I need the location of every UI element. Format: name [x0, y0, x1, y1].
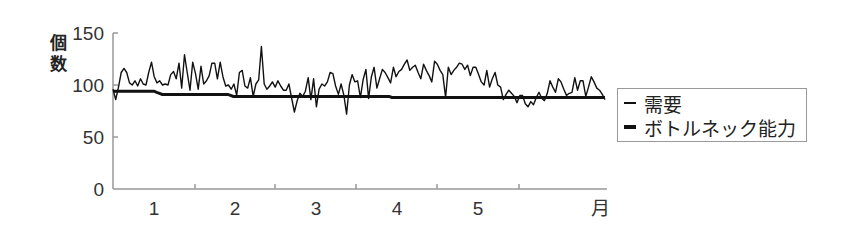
legend-label-demand: 需要 [644, 90, 682, 117]
x-tick-2: 2 [230, 198, 241, 219]
y-axis-label-char-1: 個 [49, 33, 67, 53]
y-tick-0: 0 [93, 179, 104, 200]
x-tick-5: 5 [473, 198, 484, 219]
legend-item-capacity: ボトルネック能力 [624, 115, 806, 139]
x-tick-3: 3 [311, 198, 322, 219]
chart-legend: 需要 ボトルネック能力 [617, 88, 807, 142]
x-axis-unit-label: 月 [591, 198, 610, 219]
x-tick-4: 4 [392, 198, 403, 219]
axes [113, 33, 607, 189]
legend-item-demand: 需要 [624, 91, 806, 115]
y-axis-label-char-2: 数 [50, 54, 68, 74]
x-tick-1: 1 [149, 198, 160, 219]
y-tick-100: 100 [72, 75, 104, 96]
thin-line-swatch-icon [624, 102, 636, 104]
y-tick-150: 150 [72, 23, 104, 44]
demand-series-line [113, 47, 605, 115]
thick-line-swatch-icon [624, 125, 636, 129]
legend-label-capacity: ボトルネック能力 [644, 114, 796, 141]
y-tick-50: 50 [83, 127, 104, 148]
